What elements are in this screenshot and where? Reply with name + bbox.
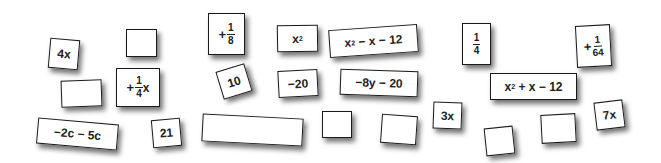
card-sign: + [583,39,591,54]
card-fraction: 1 64 [592,34,604,58]
card-rest: − x − 12 [355,32,403,49]
card-x-squared[interactable]: x2 [277,25,318,53]
card-blank[interactable] [61,79,103,107]
card-sign: + [218,27,226,42]
card-quarter[interactable]: 1 4 [462,23,491,65]
fraction-numerator: 1 [473,33,481,45]
card-minus-2c-minus-5c[interactable]: −2c − 5c [36,118,119,151]
card-label: 3x [441,108,455,122]
card-plus-eighth[interactable]: + 1 8 [208,13,245,55]
card-4x[interactable]: 4x [48,38,81,71]
card-plus-1-64[interactable]: + 1 64 [575,24,612,68]
card-blank[interactable] [380,114,418,145]
card-base: x [505,80,512,94]
card-x2-plus-x-minus-12[interactable]: x2 + x − 12 [490,73,577,100]
fraction-denominator: 4 [136,88,142,99]
card-blank-long[interactable] [201,113,303,146]
card-label: 10 [226,73,243,90]
card-rest: + x − 12 [515,80,562,94]
card-fraction: 1 4 [135,76,143,99]
fraction-numerator: 1 [135,76,143,88]
fraction-denominator: 4 [474,45,480,56]
card-label: −20 [287,76,308,91]
card-7x[interactable]: 7x [593,99,625,130]
card-label: −8y − 20 [355,75,403,91]
card-10[interactable]: 10 [215,63,252,100]
card-fraction: 1 4 [473,33,481,56]
card-minus-8y-minus-20[interactable]: −8y − 20 [340,69,419,98]
card-blank[interactable] [322,111,352,138]
card-label: 21 [159,125,174,140]
card-3x[interactable]: 3x [433,102,463,130]
card-exponent: 2 [299,35,303,42]
card-blank[interactable] [126,29,157,57]
card-label: 4x [57,46,72,61]
card-fraction: 1 8 [227,23,235,46]
card-minus-20[interactable]: −20 [277,69,318,98]
fraction-denominator: 8 [228,35,234,46]
card-sign: + [127,80,135,95]
card-x2-minus-x-minus-12[interactable]: x2 − x − 12 [328,24,419,58]
card-plus-quarter-x[interactable]: + 1 4 x [116,68,160,107]
card-suffix: x [143,81,150,95]
card-blank[interactable] [484,126,516,157]
card-label: 7x [602,107,617,123]
fraction-numerator: 1 [227,23,235,35]
card-label: −2c − 5c [53,125,101,143]
fraction-denominator: 64 [592,46,604,58]
fraction-numerator: 1 [593,34,601,46]
card-blank[interactable] [540,113,576,144]
card-21[interactable]: 21 [151,118,182,148]
